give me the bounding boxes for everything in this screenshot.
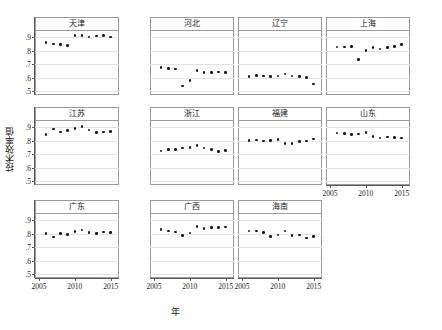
data-point xyxy=(66,233,69,236)
gridline xyxy=(35,141,119,142)
data-point xyxy=(217,226,220,229)
data-point xyxy=(357,58,360,61)
gridline xyxy=(150,168,234,169)
data-point xyxy=(217,71,220,74)
data-point xyxy=(269,75,272,78)
data-point xyxy=(196,69,199,72)
y-axis-tick-label: .9 xyxy=(25,123,31,132)
data-point xyxy=(102,34,105,37)
gridline xyxy=(150,274,234,275)
data-point xyxy=(210,226,213,229)
gridline xyxy=(150,127,234,128)
gridline xyxy=(150,141,234,142)
data-point xyxy=(59,232,62,235)
gridline xyxy=(35,274,119,275)
data-point xyxy=(95,131,98,134)
x-axis-tick-label: 2010 xyxy=(182,282,197,291)
x-axis-tick-label: 2015 xyxy=(394,189,409,198)
chart-panel-辽宁: 辽宁 xyxy=(238,17,322,95)
y-axis-row-0: .5.6.7.8.9 xyxy=(32,17,35,95)
y-axis-tick-label: .8 xyxy=(25,136,31,145)
data-point xyxy=(298,140,301,143)
gridline xyxy=(238,141,322,142)
gridline xyxy=(150,154,234,155)
gridline xyxy=(150,234,234,235)
panel-title: 广东 xyxy=(35,201,119,213)
gridline xyxy=(238,234,322,235)
panel-title-rule xyxy=(238,30,322,31)
x-axis-tick-label: 2010 xyxy=(67,282,82,291)
x-axis-line xyxy=(35,278,119,279)
x-axis-tick-label: 2015 xyxy=(306,282,321,291)
data-point xyxy=(167,148,170,151)
x-axis-tick xyxy=(154,278,155,281)
data-point xyxy=(262,75,265,78)
data-point xyxy=(343,46,346,49)
panel-title: 天津 xyxy=(35,18,119,30)
data-point xyxy=(95,232,98,235)
panel-title-rule xyxy=(238,213,322,214)
gridline xyxy=(35,247,119,248)
chart-panel-广东: 广东 xyxy=(35,200,119,278)
panel-title-rule xyxy=(150,213,234,214)
data-point xyxy=(372,46,375,49)
panel-title: 浙江 xyxy=(150,108,234,120)
x-axis-tick-label: 2010 xyxy=(270,282,285,291)
chart-panel-江苏: 江苏 xyxy=(35,107,119,185)
panel-title-rule xyxy=(35,120,119,121)
x-axis-tick xyxy=(314,278,315,281)
x-axis-tick-label: 2015 xyxy=(218,282,233,291)
y-axis-tick-label: .6 xyxy=(25,73,31,82)
data-point xyxy=(181,234,184,237)
x-axis-tick xyxy=(366,185,367,188)
x-axis-tick xyxy=(330,185,331,188)
data-point xyxy=(174,68,177,71)
y-axis-tick xyxy=(32,234,35,235)
gridline xyxy=(35,91,119,92)
gridline xyxy=(35,154,119,155)
y-axis-tick-label: .6 xyxy=(25,163,31,172)
x-axis-tick-label: 2015 xyxy=(103,282,118,291)
gridline xyxy=(35,220,119,221)
gridline xyxy=(150,247,234,248)
data-point xyxy=(343,132,346,135)
x-axis-col-1: 200520102015 xyxy=(150,278,234,292)
data-point xyxy=(210,148,213,151)
data-point xyxy=(189,146,192,149)
gridline xyxy=(238,220,322,221)
data-point xyxy=(74,34,77,37)
chart-figure: 技术效率值 年 天津河北辽宁上海江苏浙江福建山东广东广西海南 .5.6.7.8.… xyxy=(0,0,442,330)
chart-panel-浙江: 浙江 xyxy=(150,107,234,185)
x-axis-line xyxy=(238,278,322,279)
data-point xyxy=(255,74,258,77)
data-point xyxy=(393,136,396,139)
y-axis-line xyxy=(34,17,35,95)
x-axis-tick xyxy=(111,278,112,281)
gridline xyxy=(238,64,322,65)
data-point xyxy=(350,133,353,136)
data-point xyxy=(109,231,112,234)
y-axis-tick xyxy=(32,220,35,221)
gridline xyxy=(150,37,234,38)
chart-panel-天津: 天津 xyxy=(35,17,119,95)
x-axis-tick-label: 2005 xyxy=(323,189,338,198)
panel-title-rule xyxy=(150,30,234,31)
y-axis-row-2: .5.6.7.8.9 xyxy=(32,200,35,278)
data-point xyxy=(52,128,55,131)
panel-title: 山东 xyxy=(326,108,410,120)
panel-title: 江苏 xyxy=(35,108,119,120)
y-axis-tick xyxy=(32,37,35,38)
gridline xyxy=(150,220,234,221)
panel-title-rule xyxy=(238,120,322,121)
data-point xyxy=(52,43,55,46)
gridline xyxy=(326,91,410,92)
data-point xyxy=(224,149,227,152)
x-axis-tick-label: 2005 xyxy=(32,282,47,291)
y-axis-tick-label: .5 xyxy=(25,176,31,185)
gridline xyxy=(238,181,322,182)
data-point xyxy=(312,235,315,238)
y-axis-row-1: .5.6.7.8.9 xyxy=(32,107,35,185)
chart-panel-山东: 山东 xyxy=(326,107,410,185)
y-axis-tick xyxy=(32,91,35,92)
panel-title: 海南 xyxy=(238,201,322,213)
